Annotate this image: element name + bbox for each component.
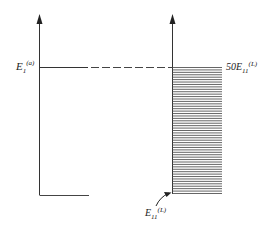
label-subscript: 1 bbox=[23, 67, 27, 75]
label-superscript: (L) bbox=[158, 206, 167, 214]
dense-level-band bbox=[173, 68, 223, 194]
pointer-arrow-icon bbox=[156, 192, 172, 206]
label-subscript: 11 bbox=[151, 213, 157, 221]
left-axis-arrow-icon bbox=[37, 14, 43, 24]
left-level-label: E1(a) bbox=[16, 60, 34, 75]
label-superscript: (L) bbox=[249, 60, 258, 68]
right-top-level-label: 50E11(L) bbox=[226, 61, 257, 75]
label-coefficient: 50 bbox=[226, 61, 236, 72]
energy-diagram: E1(a) 50E11(L) E11(L) bbox=[0, 0, 274, 233]
right-bottom-level-label: E11(L) bbox=[145, 207, 166, 221]
label-superscript: (a) bbox=[26, 59, 34, 67]
label-subscript: 11 bbox=[242, 67, 248, 75]
diagram-graphics bbox=[0, 0, 274, 233]
right-axis-arrow-icon bbox=[170, 14, 176, 24]
label-base: E bbox=[16, 60, 23, 72]
left-axis bbox=[37, 14, 90, 196]
